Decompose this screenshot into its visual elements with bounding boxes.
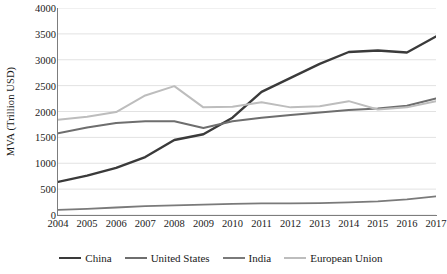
x-tick-label: 2017: [426, 218, 447, 229]
y-tick-label: 1500: [35, 132, 56, 143]
legend-swatch: [284, 257, 306, 259]
legend-item-european-union[interactable]: European Union: [284, 252, 382, 264]
y-tick-label: 3000: [35, 54, 56, 65]
legend-label: European Union: [310, 252, 382, 264]
plot-area: [58, 8, 436, 215]
x-tick-label: 2011: [251, 218, 272, 229]
x-axis-line: [57, 215, 437, 216]
legend-label: China: [85, 252, 111, 264]
legend-label: India: [249, 252, 272, 264]
series-lines: [58, 36, 436, 209]
y-tick-label: 2500: [35, 80, 56, 91]
x-tick-label: 2008: [164, 218, 185, 229]
plot-svg: [58, 8, 436, 215]
y-axis-tick-labels: 05001000150020002500300035004000: [22, 0, 58, 222]
legend-item-china[interactable]: China: [59, 252, 111, 264]
x-axis-tick-labels: 2004200520062007200820092010201120122013…: [58, 218, 436, 236]
x-tick-label: 2012: [280, 218, 301, 229]
x-tick-label: 2009: [193, 218, 214, 229]
x-tick-label: 2014: [338, 218, 359, 229]
chart-legend: ChinaUnited StatesIndiaEuropean Union: [0, 248, 442, 268]
legend-item-united-states[interactable]: United States: [125, 252, 210, 264]
legend-label: United States: [151, 252, 210, 264]
x-tick-label: 2006: [106, 218, 127, 229]
y-tick-label: 1000: [35, 158, 56, 169]
x-tick-label: 2015: [367, 218, 388, 229]
x-tick-label: 2005: [77, 218, 98, 229]
y-axis-title: MVA (Trillion USD): [0, 0, 22, 222]
y-tick-label: 4000: [35, 3, 56, 14]
legend-swatch: [59, 257, 81, 259]
y-axis-title-text: MVA (Trillion USD): [6, 66, 17, 155]
legend-swatch: [125, 257, 147, 259]
x-tick-label: 2004: [48, 218, 69, 229]
series-line-european-union: [58, 86, 436, 120]
x-tick-label: 2010: [222, 218, 243, 229]
x-tick-label: 2016: [396, 218, 417, 229]
y-tick-label: 3500: [35, 28, 56, 39]
y-tick-label: 500: [40, 184, 56, 195]
x-tick-label: 2007: [135, 218, 156, 229]
y-tick-label: 2000: [35, 106, 56, 117]
x-tick-label: 2013: [309, 218, 330, 229]
series-line-india: [58, 196, 436, 209]
legend-item-india[interactable]: India: [223, 252, 272, 264]
legend-swatch: [223, 257, 245, 259]
